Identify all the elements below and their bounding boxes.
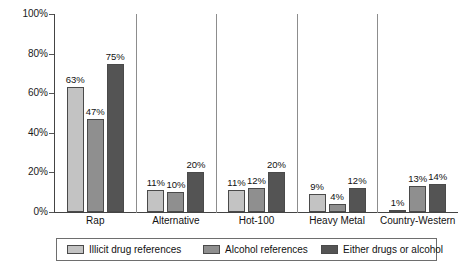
bar — [167, 192, 184, 212]
y-tick-mark — [49, 14, 54, 15]
y-tick-label: 40% — [2, 128, 48, 138]
y-tick-label: 0% — [2, 207, 48, 217]
bar-group: 11%10%20% — [136, 14, 217, 212]
y-tick-label: 100% — [2, 9, 48, 19]
x-axis-label: Hot-100 — [216, 215, 297, 227]
legend-swatch-icon — [321, 245, 338, 254]
group-separator-line — [297, 14, 298, 213]
legend-label: Either drugs or alcohol — [343, 244, 443, 255]
bar — [228, 190, 245, 212]
bar-value-label: 20% — [183, 160, 209, 170]
bar-value-label: 75% — [102, 52, 128, 62]
bar-value-label: 14% — [425, 172, 451, 182]
bar-group: 9%4%12% — [297, 14, 378, 212]
bar — [349, 188, 366, 212]
bar-value-label: 12% — [243, 176, 269, 186]
legend-item[interactable]: Illicit drug references — [67, 244, 181, 255]
x-axis-label: Rap — [55, 215, 136, 227]
group-separator-line — [377, 14, 378, 213]
group-separator-line — [216, 14, 217, 213]
bar-value-label: 1% — [385, 198, 411, 208]
y-tick-mark — [49, 212, 54, 213]
bar — [248, 188, 265, 212]
bar-group: 1%13%14% — [377, 14, 458, 212]
y-tick-mark — [49, 172, 54, 173]
bar — [107, 64, 124, 213]
bar — [187, 172, 204, 212]
y-tick-label: 20% — [2, 167, 48, 177]
legend-swatch-icon — [203, 245, 220, 254]
bar-value-label: 20% — [263, 160, 289, 170]
x-axis-category-labels: RapAlternativeHot-100Heavy MetalCountry-… — [55, 215, 458, 231]
bar — [409, 186, 426, 212]
bar — [329, 204, 346, 212]
legend-swatch-icon — [67, 245, 84, 254]
y-tick-label: 80% — [2, 49, 48, 59]
chart-legend: Illicit drug referencesAlcohol reference… — [56, 238, 437, 261]
bar — [87, 119, 104, 212]
y-tick-mark — [49, 54, 54, 55]
bar-value-label: 47% — [82, 107, 108, 117]
legend-label: Alcohol references — [225, 244, 308, 255]
legend-label: Illicit drug references — [89, 244, 181, 255]
bar — [309, 194, 326, 212]
bars-area: 63%47%75%11%10%20%11%12%20%9%4%12%1%13%1… — [55, 14, 458, 212]
y-tick-label: 60% — [2, 88, 48, 98]
bar-value-label: 12% — [344, 176, 370, 186]
bar-value-label: 4% — [324, 192, 350, 202]
bar-value-label: 63% — [62, 75, 88, 85]
bar-value-label: 9% — [304, 182, 330, 192]
bar — [67, 87, 84, 212]
group-separator-line — [136, 14, 137, 213]
bar — [147, 190, 164, 212]
bar — [429, 184, 446, 212]
x-axis-line — [54, 212, 458, 213]
plot-area: 0%20%40%60%80%100% 63%47%75%11%10%20%11%… — [0, 0, 471, 232]
y-tick-mark — [49, 133, 54, 134]
legend-item[interactable]: Either drugs or alcohol — [321, 244, 443, 255]
bar — [389, 210, 406, 212]
x-axis-label: Country-Western — [377, 215, 458, 227]
bar-group: 63%47%75% — [55, 14, 136, 212]
bar-group: 11%12%20% — [216, 14, 297, 212]
bar-value-label: 10% — [163, 180, 189, 190]
y-axis-tick-labels: 0%20%40%60%80%100% — [0, 0, 48, 232]
x-axis-label: Alternative — [136, 215, 217, 227]
bar — [268, 172, 285, 212]
y-tick-mark — [49, 93, 54, 94]
x-axis-label: Heavy Metal — [297, 215, 378, 227]
bar-chart: 0%20%40%60%80%100% 63%47%75%11%10%20%11%… — [0, 0, 471, 271]
legend-item[interactable]: Alcohol references — [203, 244, 308, 255]
